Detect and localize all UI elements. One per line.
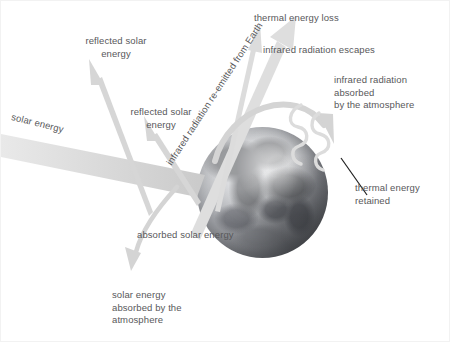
label-infrared-radiation-absorbed-by-atmosphere: infrared radiation absorbed by the atmos…	[334, 74, 449, 112]
label-infrared-radiation-escapes: infrared radiation escapes	[263, 44, 375, 57]
label-solar-energy-absorbed-by-atmosphere: solar energy absorbed by the atmosphere	[112, 289, 182, 327]
diagram-canvas: reflected solar energy reflected solar e…	[0, 0, 450, 342]
label-reflected-solar-energy-upper: reflected solar energy	[57, 35, 175, 60]
label-thermal-energy-loss: thermal energy loss	[254, 12, 339, 25]
label-absorbed-solar-energy: absorbed solar energy	[137, 229, 234, 242]
label-thermal-energy-retained: thermal energy retained	[355, 182, 420, 207]
reflected-solar-arrow-upper	[89, 59, 153, 216]
